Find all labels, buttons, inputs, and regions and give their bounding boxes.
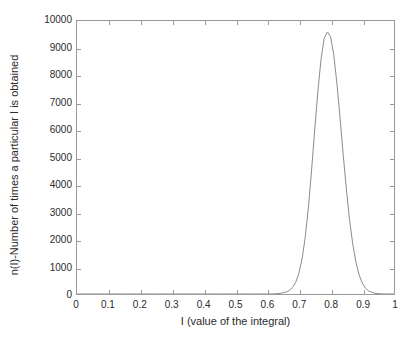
y-tick-label: 5000 xyxy=(50,152,72,164)
y-tick-label: 6000 xyxy=(50,124,72,136)
y-tick xyxy=(390,104,394,105)
y-tick xyxy=(77,131,81,132)
y-tick-label: 10000 xyxy=(44,14,72,26)
y-tick-label: 0 xyxy=(66,289,72,301)
chart-figure: 00.10.20.30.40.50.60.70.80.91 0100020003… xyxy=(0,0,418,340)
y-tick-label: 3000 xyxy=(50,207,72,219)
y-tick xyxy=(77,241,81,242)
y-tick xyxy=(77,269,81,270)
x-tick xyxy=(109,21,110,25)
y-tick xyxy=(390,76,394,77)
x-tick xyxy=(332,21,333,25)
y-tick xyxy=(77,214,81,215)
y-tick-label: 2000 xyxy=(50,234,72,246)
x-tick-label: 1 xyxy=(375,299,415,310)
x-tick xyxy=(364,21,365,25)
distribution-curve xyxy=(77,21,394,294)
y-tick-label: 9000 xyxy=(50,42,72,54)
y-tick xyxy=(77,76,81,77)
x-tick xyxy=(237,21,238,25)
y-tick xyxy=(77,104,81,105)
y-tick-label: 1000 xyxy=(50,262,72,274)
y-tick xyxy=(390,269,394,270)
y-tick xyxy=(390,186,394,187)
x-tick xyxy=(268,290,269,294)
x-tick xyxy=(173,21,174,25)
x-tick xyxy=(332,290,333,294)
y-tick xyxy=(390,159,394,160)
y-tick xyxy=(77,186,81,187)
y-tick xyxy=(390,214,394,215)
x-axis-title: I (value of the integral) xyxy=(76,315,395,327)
y-axis-title: n(I)-Number of times a particular I is o… xyxy=(8,28,24,303)
y-tick-label: 7000 xyxy=(50,97,72,109)
x-tick xyxy=(300,290,301,294)
x-tick xyxy=(364,290,365,294)
y-tick-label: 8000 xyxy=(50,69,72,81)
y-tick xyxy=(390,131,394,132)
y-tick xyxy=(77,49,81,50)
x-tick xyxy=(141,21,142,25)
y-tick-label: 4000 xyxy=(50,179,72,191)
x-tick xyxy=(173,290,174,294)
x-tick xyxy=(141,290,142,294)
y-tick xyxy=(390,241,394,242)
x-tick xyxy=(237,290,238,294)
plot-area xyxy=(76,20,395,295)
y-tick xyxy=(390,49,394,50)
x-tick xyxy=(300,21,301,25)
x-tick xyxy=(205,290,206,294)
x-tick xyxy=(268,21,269,25)
x-tick xyxy=(205,21,206,25)
x-tick xyxy=(109,290,110,294)
y-tick xyxy=(77,159,81,160)
